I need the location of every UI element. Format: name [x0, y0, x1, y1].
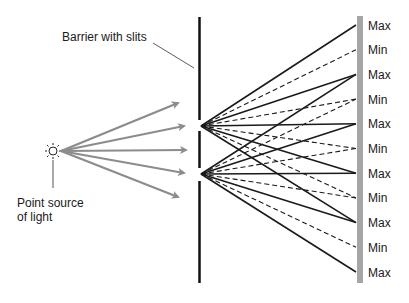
- ray-max: [201, 174, 356, 272]
- min-label: Min: [368, 191, 387, 205]
- ray-min: [201, 149, 356, 175]
- max-label: Max: [368, 68, 391, 82]
- barrier-leader-line: [153, 43, 194, 68]
- ray-max: [201, 173, 356, 174]
- min-label: Min: [368, 241, 387, 255]
- min-label: Min: [368, 93, 387, 107]
- max-label: Max: [368, 19, 391, 33]
- double-slit-diagram: MaxMinMaxMinMaxMinMaxMinMaxMinMax Barrie…: [0, 0, 409, 303]
- source-label-line2: of light: [17, 210, 53, 224]
- max-label: Max: [368, 117, 391, 131]
- screen-labels: MaxMinMaxMinMaxMinMaxMinMaxMinMax: [368, 19, 391, 280]
- ray-min: [201, 126, 356, 198]
- ray-max: [201, 174, 356, 223]
- min-label: Min: [368, 142, 387, 156]
- ray-max: [201, 74, 356, 126]
- light-arrow: [61, 103, 178, 151]
- min-label: Min: [368, 43, 387, 57]
- light-source-icon: [45, 143, 61, 159]
- barrier-label: Barrier with slits: [62, 30, 147, 44]
- light-arrow: [61, 151, 178, 197]
- max-label: Max: [368, 266, 391, 280]
- incident-light-arrows: [61, 103, 186, 197]
- max-label: Max: [368, 216, 391, 230]
- light-arrow: [61, 150, 186, 151]
- source-label-line1: Point source: [17, 196, 84, 210]
- ray-min: [201, 174, 356, 198]
- screen: [357, 16, 363, 283]
- light-arrow: [61, 126, 184, 151]
- ray-min: [201, 174, 356, 247]
- ray-min: [201, 99, 356, 126]
- ray-min: [201, 50, 356, 126]
- light-arrow: [61, 151, 184, 173]
- max-label: Max: [368, 167, 391, 181]
- interference-rays: [201, 25, 356, 272]
